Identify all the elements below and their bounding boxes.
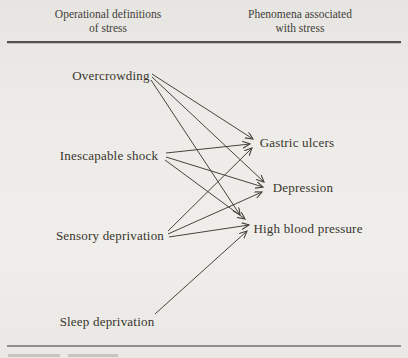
arrow-sensory-deprivation-to-depression (168, 192, 262, 234)
arrow-sensory-deprivation-to-gastric-ulcers (168, 148, 252, 231)
caption-remnant (8, 354, 60, 357)
caption-remnant (68, 354, 118, 357)
node-sleep-deprivation: Sleep deprivation (60, 314, 155, 330)
node-overcrowding: Overcrowding (72, 68, 150, 84)
node-inescapable-shock: Inescapable shock (60, 148, 158, 164)
node-high-blood-pressure: High blood pressure (253, 221, 362, 237)
node-sensory-deprivation: Sensory deprivation (56, 228, 164, 244)
node-gastric-ulcers: Gastric ulcers (260, 135, 335, 151)
arrow-sensory-deprivation-to-high-blood-pressure (169, 225, 249, 237)
bottom-rule (7, 345, 401, 347)
arrow-layer (0, 0, 408, 358)
node-depression: Depression (273, 180, 334, 196)
arrow-inescapable-shock-to-gastric-ulcers (166, 144, 250, 153)
stress-definitions-figure: Operational definitions of stress Phenom… (0, 0, 408, 358)
arrow-sleep-deprivation-to-high-blood-pressure (155, 231, 247, 314)
arrow-overcrowding-to-gastric-ulcers (152, 74, 253, 139)
